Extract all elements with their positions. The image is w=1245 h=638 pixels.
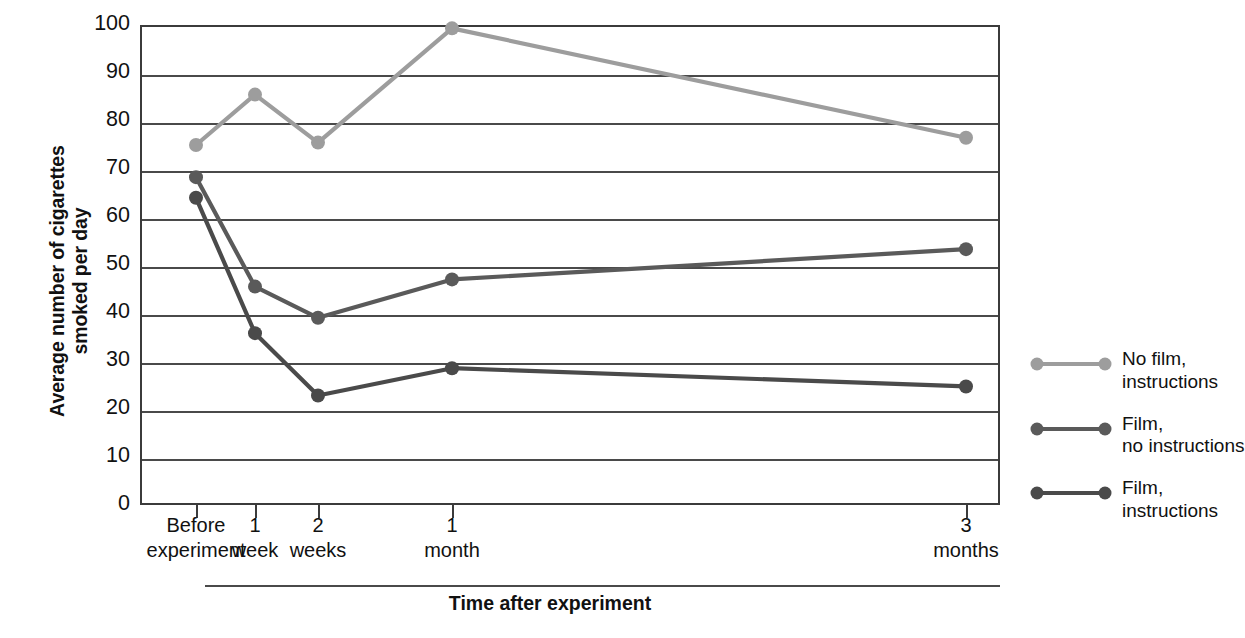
gridline xyxy=(142,171,998,173)
plot-area xyxy=(140,25,1000,505)
gridline xyxy=(142,219,998,221)
gridline xyxy=(142,267,998,269)
y-axis-tick-label: 70 xyxy=(46,155,130,180)
y-axis-tick-label: 90 xyxy=(46,59,130,84)
legend-item-label: No film, instructions xyxy=(1122,348,1218,392)
chart-root: Average number of cigarettes smoked per … xyxy=(0,0,1245,638)
gridline xyxy=(142,123,998,125)
gridline xyxy=(142,363,998,365)
legend-swatch-icon xyxy=(1030,354,1112,368)
legend-swatch-icon xyxy=(1030,483,1112,497)
gridline xyxy=(142,459,998,461)
y-axis-tick-label: 80 xyxy=(46,107,130,132)
y-axis-tick-label: 20 xyxy=(46,395,130,420)
legend-item[interactable]: No film, instructions xyxy=(1030,348,1245,394)
gridline xyxy=(142,75,998,77)
y-axis-tick-label: 60 xyxy=(46,203,130,228)
legend-item[interactable]: Film, instructions xyxy=(1030,477,1245,523)
gridline xyxy=(142,411,998,413)
gridline xyxy=(142,315,998,317)
y-axis-tick-label: 10 xyxy=(46,443,130,468)
legend-swatch-icon xyxy=(1030,419,1112,433)
legend-item-label: Film, instructions xyxy=(1122,477,1218,521)
x-axis-tick-label: 1 month xyxy=(367,513,537,563)
legend-item-label: Film, no instructions xyxy=(1122,413,1245,457)
legend: No film, instructionsFilm, no instructio… xyxy=(1030,348,1245,542)
y-axis-tick-label: 100 xyxy=(46,11,130,36)
y-axis-tick-label: 30 xyxy=(46,347,130,372)
legend-item[interactable]: Film, no instructions xyxy=(1030,413,1245,459)
y-axis-tick-label: 50 xyxy=(46,251,130,276)
x-axis-title: Time after experiment xyxy=(0,592,1100,615)
x-axis-tick-label: 3 months xyxy=(881,513,1051,563)
y-axis-tick-label: 40 xyxy=(46,299,130,324)
x-axis-bracket xyxy=(205,585,1000,587)
